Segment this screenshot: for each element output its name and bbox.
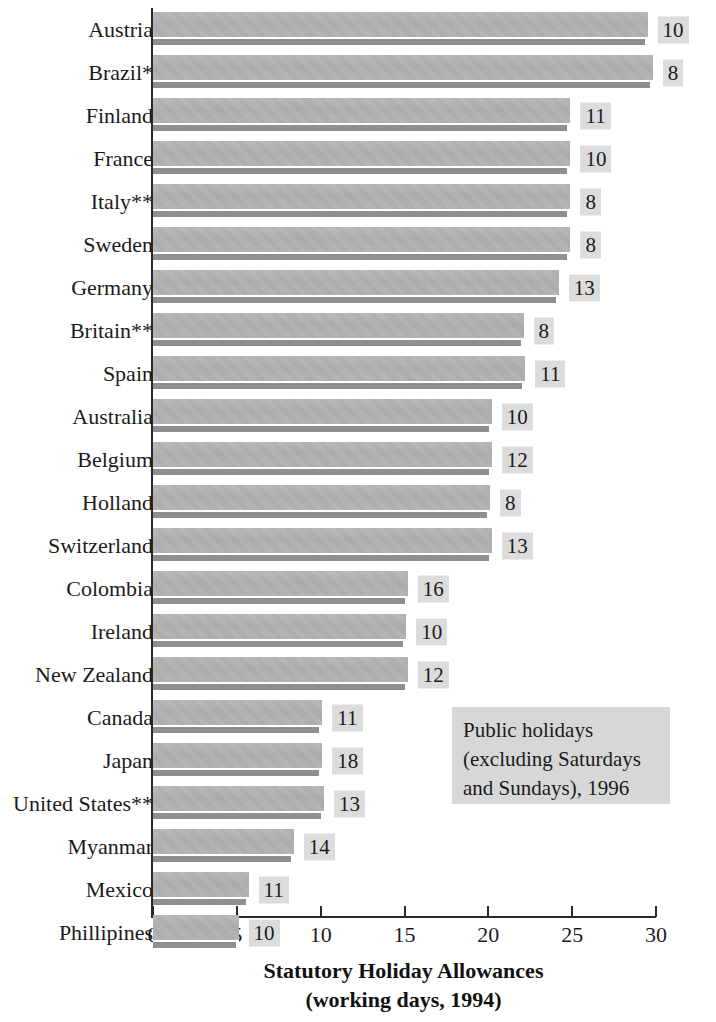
value-label: 10 [249, 919, 280, 946]
bar [153, 614, 406, 639]
bar-group [153, 270, 559, 304]
bar-shadow [153, 598, 405, 604]
bar-row: Colombia16 [0, 567, 716, 610]
value-label: 8 [580, 188, 601, 215]
bar-row: Brazil*8 [0, 51, 716, 94]
bar-shadow [153, 899, 246, 905]
category-label-ireland: Ireland [91, 619, 153, 645]
bar-shadow [153, 340, 521, 346]
category-label-new-zealand: New Zealand [35, 662, 153, 688]
value-label: 16 [418, 575, 449, 602]
bar-group [153, 743, 322, 777]
bar-shadow [153, 856, 291, 862]
bar-group [153, 98, 570, 132]
bar-row: Spain11 [0, 352, 716, 395]
category-label-canada: Canada [87, 705, 153, 731]
bar-shadow [153, 254, 567, 260]
bar [153, 141, 570, 166]
bar-row: Australia10 [0, 395, 716, 438]
bar-shadow [153, 211, 567, 217]
bar-row: Finland11 [0, 94, 716, 137]
bar [153, 829, 294, 854]
value-label: 18 [332, 747, 363, 774]
category-label-switzerland: Switzerland [48, 533, 153, 559]
bar [153, 657, 408, 682]
bar [153, 872, 249, 897]
legend-line-1: Public holidays [463, 716, 670, 745]
value-label: 12 [418, 661, 449, 688]
bar-row: Switzerland13 [0, 524, 716, 567]
bar-row: Germany13 [0, 266, 716, 309]
value-label: 8 [580, 231, 601, 258]
legend-annotation-box: Public holidays (excluding Saturdays and… [452, 707, 670, 804]
bar-shadow [153, 641, 403, 647]
bar-group [153, 356, 525, 390]
bar-shadow [153, 512, 487, 518]
bar [153, 915, 239, 940]
bar-group [153, 12, 648, 46]
value-label: 11 [332, 704, 362, 731]
bar-group [153, 55, 653, 89]
category-label-finland: Finland [86, 103, 153, 129]
bar-shadow [153, 813, 321, 819]
bar-shadow [153, 125, 567, 131]
bar-shadow [153, 383, 522, 389]
bar-group [153, 184, 570, 218]
bar-shadow [153, 297, 556, 303]
bar-row: Holland8 [0, 481, 716, 524]
bar-shadow [153, 82, 650, 88]
bar-group [153, 313, 524, 347]
bar-shadow [153, 426, 489, 432]
category-label-colombia: Colombia [66, 576, 153, 602]
bar [153, 743, 322, 768]
value-label: 13 [334, 790, 365, 817]
value-label: 14 [304, 833, 335, 860]
value-label: 12 [502, 446, 533, 473]
category-label-britain: Britain** [70, 318, 153, 344]
bar-row: Austria10 [0, 8, 716, 51]
category-label-austria: Austria [88, 17, 153, 43]
category-label-holland: Holland [82, 490, 153, 516]
bar-group [153, 872, 249, 906]
bar-group [153, 786, 324, 820]
bar [153, 98, 570, 123]
bar-row: Myanmar14 [0, 825, 716, 868]
bar-shadow [153, 555, 489, 561]
bar-shadow [153, 168, 567, 174]
chart-subtitle: (working days, 1994) [151, 985, 656, 1014]
bar-row: Britain**8 [0, 309, 716, 352]
bar-row: Ireland10 [0, 610, 716, 653]
category-label-belgium: Belgium [77, 447, 153, 473]
value-label: 8 [500, 489, 521, 516]
value-label: 8 [534, 317, 555, 344]
bar-group [153, 442, 492, 476]
bar-group [153, 829, 294, 863]
category-label-japan: Japan [103, 748, 153, 774]
bar [153, 12, 648, 37]
bar-row: New Zealand12 [0, 653, 716, 696]
category-label-brazil: Brazil* [88, 60, 153, 86]
bar-group [153, 915, 239, 949]
value-label: 10 [658, 16, 689, 43]
bar [153, 55, 653, 80]
bar-group [153, 399, 492, 433]
bar-row: Phillipines10 [0, 911, 716, 954]
bar [153, 528, 492, 553]
bar [153, 399, 492, 424]
value-label: 10 [580, 145, 611, 172]
bar-group [153, 485, 490, 519]
bar [153, 313, 524, 338]
bar [153, 356, 525, 381]
category-label-sweden: Sweden [83, 232, 153, 258]
bar [153, 571, 408, 596]
bar-shadow [153, 942, 236, 948]
bar-row: France10 [0, 137, 716, 180]
value-label: 11 [259, 876, 289, 903]
category-label-germany: Germany [71, 275, 153, 301]
bar-shadow [153, 770, 319, 776]
bar [153, 270, 559, 295]
category-label-mexico: Mexico [86, 877, 153, 903]
bar-chart: 051015202530 Austria10Brazil*8Finland11F… [0, 0, 716, 1022]
category-label-australia: Australia [72, 404, 153, 430]
value-label: 10 [502, 403, 533, 430]
